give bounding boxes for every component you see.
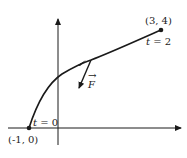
force-vector-mark: →: [88, 70, 97, 81]
start-point-dot: [27, 126, 32, 131]
curve-diagram: (3, 4) t = 2 t = 0 (-1, 0) F →: [0, 0, 187, 158]
end-point-dot: [159, 28, 164, 33]
end-param-label: t = 2: [146, 36, 171, 47]
end-point-label: (3, 4): [145, 15, 172, 26]
start-param-label: t = 0: [33, 117, 58, 128]
start-point-label: (-1, 0): [8, 134, 38, 145]
